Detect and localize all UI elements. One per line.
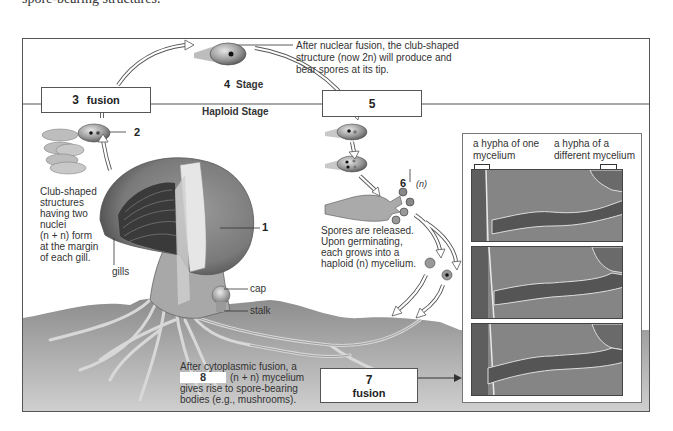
box-7-fusion: 7 fusion — [320, 368, 418, 403]
gills-label: gills — [112, 266, 129, 278]
stalk-label: stalk — [250, 305, 271, 317]
number-1: 1 — [262, 221, 268, 233]
button-mushroom-stalk — [216, 302, 226, 312]
box-7-number: 7 — [366, 373, 373, 387]
club-cells-cluster — [42, 124, 110, 174]
haploid-stage-label: Haploid Stage — [202, 106, 269, 117]
number-6: 6 — [400, 177, 406, 189]
box-5: 5 — [322, 90, 422, 117]
cap-label: cap — [250, 283, 266, 295]
club-shaped-annotation: Club-shaped structures having two nuclei… — [40, 186, 98, 263]
box-3-number: 3 — [72, 93, 79, 107]
number-6-ploidy: (n) — [416, 178, 427, 190]
nuclear-fusion-annotation: After nuclear fusion, the club-shaped st… — [296, 40, 459, 76]
number-4: 4 — [224, 78, 230, 90]
cytoplasmic-fusion-annotation: After cytoplasmic fusion, a 8 (n + n) my… — [180, 361, 304, 405]
hyphae-photo-3 — [471, 323, 623, 396]
box-8: 8 — [180, 372, 226, 383]
stage-4-label: Stage — [236, 79, 263, 90]
number-2: 2 — [134, 126, 140, 138]
box-3-label: fusion — [87, 94, 120, 106]
stage-4-cell — [194, 43, 246, 65]
spores-released-annotation: Spores are released. Upon germinating, e… — [321, 225, 416, 269]
photo-label-left: a hypha of one mycelium — [473, 138, 539, 162]
hyphae-photo-panel: a hypha of one mycelium a hypha of a dif… — [462, 133, 642, 403]
box-5-number: 5 — [369, 97, 376, 111]
photo-label-right: a hypha of a different mycelium — [554, 138, 635, 162]
hyphae-photo-1 — [471, 169, 623, 242]
hyphae-photo-2 — [471, 246, 623, 319]
box-7-label: fusion — [353, 387, 386, 399]
box-3-fusion: 3 fusion — [41, 87, 151, 113]
